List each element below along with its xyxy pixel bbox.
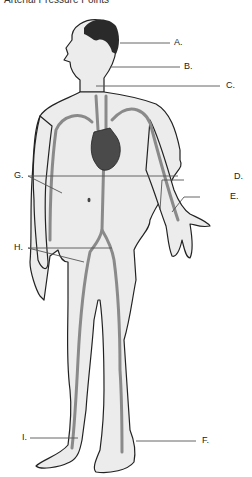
navel bbox=[88, 198, 91, 202]
label-i: I. bbox=[22, 432, 27, 442]
label-g: G. bbox=[14, 170, 24, 180]
human-figure-diagram bbox=[0, 0, 252, 477]
label-a: A. bbox=[174, 37, 183, 47]
label-c: C. bbox=[226, 80, 235, 90]
label-h: H. bbox=[14, 242, 23, 252]
label-b: B. bbox=[184, 61, 193, 71]
label-d: D. bbox=[234, 171, 243, 181]
label-f: F. bbox=[202, 435, 209, 445]
label-e: E. bbox=[230, 191, 239, 201]
